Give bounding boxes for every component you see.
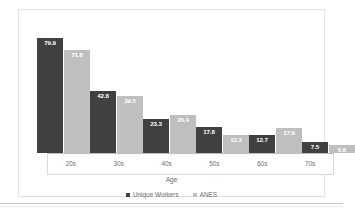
bar-anes: 26.4: [170, 115, 196, 153]
bar-value-label: 17.6: [276, 130, 302, 136]
bar-value-label: 26.4: [170, 117, 196, 123]
bar-value-label: 17.8: [196, 129, 222, 135]
cat-label-20s: 20s: [47, 157, 95, 171]
cat-label-40s: 40s: [143, 157, 191, 171]
bar-group: 7.5 5.8: [302, 18, 355, 153]
bar-value-label: 12.7: [249, 137, 275, 143]
bar-value-label: 42.8: [90, 93, 116, 99]
chart-legend: Unique Workers ANES: [19, 192, 324, 198]
cat-label-60s: 60s: [238, 157, 286, 171]
page-divider-line: [0, 203, 343, 204]
page-divider-line-secondary: [0, 206, 343, 207]
cat-label-30s: 30s: [95, 157, 143, 171]
bar-value-label: 7.5: [302, 144, 328, 150]
bar-unique-workers: 17.8: [196, 127, 222, 153]
bar-group: 12.7 17.6: [249, 18, 302, 153]
legend-entry-anes[interactable]: ANES: [193, 192, 217, 198]
legend-swatch-icon: [193, 193, 197, 197]
bar-unique-workers: 23.3: [143, 119, 169, 153]
bar-anes: 71.8: [64, 50, 90, 153]
bar-unique-workers: 7.5: [302, 142, 328, 153]
bar-anes: 12.3: [223, 135, 249, 153]
bar-groups: 79.9 71.8 42.8 39.5: [37, 18, 312, 153]
bar-value-label: 79.9: [37, 40, 63, 46]
bar-anes: 39.5: [117, 96, 143, 153]
plot-area: 79.9 71.8 42.8 39.5: [27, 18, 316, 153]
cat-label-50s: 50s: [190, 157, 238, 171]
plot-inner: 79.9 71.8 42.8 39.5: [37, 18, 312, 153]
bar-group: 42.8 39.5: [90, 18, 143, 153]
x-axis-title: Age: [19, 176, 324, 183]
bar-anes: 17.6: [276, 128, 302, 153]
bar-group: 17.8 12.3: [196, 18, 249, 153]
bar-value-label: 39.5: [117, 98, 143, 104]
bar-group: 23.3 26.4: [143, 18, 196, 153]
legend-label: ANES: [200, 192, 217, 198]
cat-label-70s: 70s: [286, 157, 334, 171]
bar-anes: 5.8: [329, 145, 355, 153]
bar-unique-workers: 12.7: [249, 135, 275, 153]
bar-unique-workers: 79.9: [37, 38, 63, 153]
chart-frame: 79.9 71.8 42.8 39.5: [18, 9, 325, 197]
legend-swatch-icon: [126, 193, 130, 197]
bar-value-label: 12.3: [223, 137, 249, 143]
bar-value-label: 71.8: [64, 52, 90, 58]
bar-unique-workers: 42.8: [90, 91, 116, 153]
category-axis-labels: 20s 30s 40s 50s 60s 70s: [47, 157, 334, 171]
bar-value-label: 23.3: [143, 121, 169, 127]
legend-entry-unique-workers[interactable]: Unique Workers: [126, 192, 179, 198]
legend-label: Unique Workers: [133, 192, 179, 198]
bar-group: 79.9 71.8: [37, 18, 90, 153]
